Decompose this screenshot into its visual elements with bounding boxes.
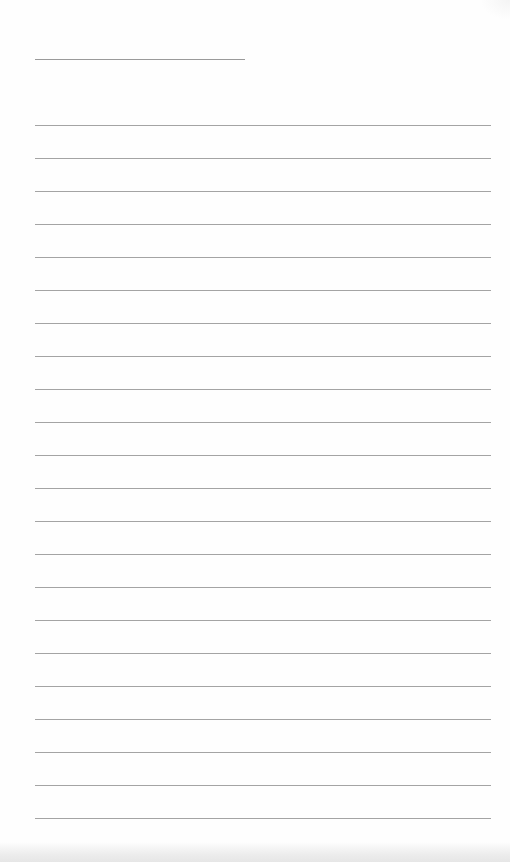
ruled-line bbox=[35, 686, 491, 687]
ruled-line bbox=[35, 389, 491, 390]
notepad-page bbox=[0, 0, 510, 862]
heading-line bbox=[35, 59, 245, 60]
ruled-line bbox=[35, 356, 491, 357]
ruled-line bbox=[35, 191, 491, 192]
ruled-line bbox=[35, 125, 491, 126]
ruled-line bbox=[35, 818, 491, 819]
ruled-line bbox=[35, 257, 491, 258]
ruled-line bbox=[35, 224, 491, 225]
ruled-line bbox=[35, 158, 491, 159]
ruled-line bbox=[35, 521, 491, 522]
ruled-line bbox=[35, 752, 491, 753]
ruled-line bbox=[35, 719, 491, 720]
ruled-line bbox=[35, 554, 491, 555]
ruled-line bbox=[35, 422, 491, 423]
ruled-line bbox=[35, 290, 491, 291]
paper-bottom-edge bbox=[0, 842, 510, 862]
ruled-line bbox=[35, 587, 491, 588]
ruled-line bbox=[35, 620, 491, 621]
paper-corner-shading bbox=[480, 0, 510, 20]
ruled-line bbox=[35, 488, 491, 489]
ruled-line bbox=[35, 653, 491, 654]
ruled-line bbox=[35, 455, 491, 456]
ruled-line bbox=[35, 323, 491, 324]
ruled-line bbox=[35, 785, 491, 786]
